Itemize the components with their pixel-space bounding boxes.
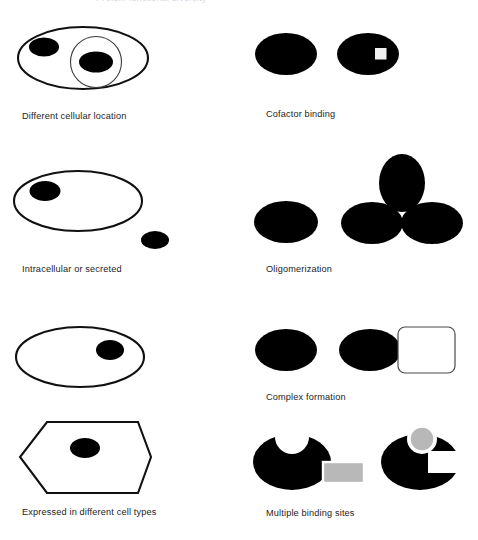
protein-ellipse-in-hexagon-cell (70, 438, 100, 458)
protein-ellipse-free (255, 329, 317, 371)
oligomerization-graphic (250, 155, 470, 255)
expressed-hexagon-cell-graphic (8, 415, 208, 500)
protein-ellipse-secreted (141, 231, 169, 249)
caption-expressed-in-different-cell-types: Expressed in different cell types (22, 508, 157, 517)
caption-intracellular-or-secreted: Intracellular or secreted (22, 265, 122, 274)
protein-ellipse-cytoplasm (29, 38, 59, 57)
caption-complex-formation: Complex formation (266, 393, 346, 402)
protein-ellipse-nucleus (79, 52, 113, 73)
protein-blob-notched-top (253, 434, 331, 490)
protein-ellipse-in-round-cell (96, 340, 124, 360)
oligomer-left-ellipse (341, 202, 403, 244)
panel-multiple-binding-sites (250, 425, 478, 505)
panel-expressed-hexagon-cell (8, 415, 218, 505)
protein-functional-diversity-figure: Protein functional diversity Different c… (0, 0, 478, 540)
cropped-title-text: Protein functional diversity (96, 0, 207, 3)
panel-cofactor-binding (250, 24, 470, 94)
expressed-round-cell-graphic (8, 315, 208, 400)
caption-cofactor-binding: Cofactor binding (266, 110, 335, 119)
protein-ellipse-holo (337, 33, 399, 75)
monomer-ellipse (254, 201, 318, 243)
caption-multiple-binding-sites: Multiple binding sites (266, 509, 355, 518)
cofactor-square (375, 48, 387, 60)
partner-rounded-rectangle (398, 327, 455, 373)
panel-complex-formation (250, 320, 475, 390)
panel-intracellular-or-secreted (8, 165, 218, 265)
caption-oligomerization: Oligomerization (266, 265, 332, 274)
oligomer-top-ellipse (379, 154, 425, 212)
panel-different-cellular-location (8, 14, 218, 124)
intracellular-or-secreted-graphic (8, 165, 208, 260)
caption-different-cellular-location: Different cellular location (22, 112, 126, 121)
ligand-rectangle (323, 462, 364, 483)
different-cellular-location-graphic (8, 14, 208, 104)
multiple-binding-sites-graphic (250, 425, 478, 505)
cell-outline-ellipse (16, 327, 144, 387)
protein-ellipse-apo (255, 33, 317, 75)
complex-formation-graphic (250, 320, 470, 385)
cell-outline-ellipse (14, 171, 142, 231)
ligand-circle (410, 427, 435, 452)
panel-oligomerization (250, 155, 475, 260)
panel-expressed-round-cell (8, 315, 218, 405)
cofactor-binding-graphic (250, 24, 465, 84)
protein-ellipse-intracellular (30, 181, 61, 201)
protein-ellipse-bound (339, 329, 401, 371)
oligomer-right-ellipse (401, 202, 463, 244)
